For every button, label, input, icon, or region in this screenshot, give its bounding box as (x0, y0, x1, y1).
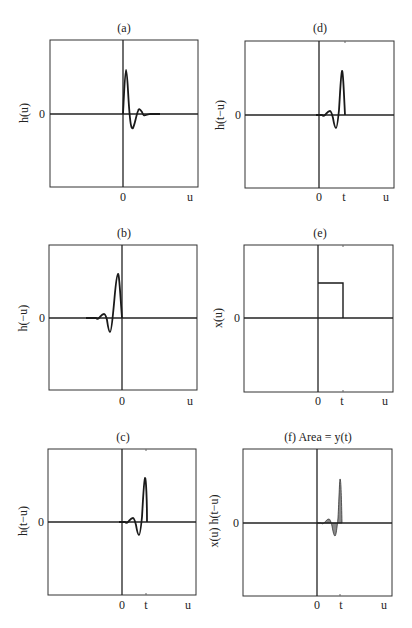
panel-a-ylabel: h(u) (17, 103, 31, 123)
panel-b-zero-y: 0 (39, 311, 45, 325)
panel-e-ylabel: x(u) (211, 308, 225, 328)
panel-d-xtick-u: u (383, 190, 389, 204)
panel-a-xtick-0: 0 (120, 190, 126, 204)
panel-b-reversed-curve (86, 274, 122, 332)
panel-d-xtick-0: 0 (316, 190, 322, 204)
panel-f-zero-y: 0 (233, 516, 239, 530)
convolution-figure: (a) h(u) 0 0 u (d) h(t−u) 0 0 t u (b) (0, 0, 412, 628)
panel-a-xtick-u: u (187, 190, 193, 204)
panel-f: (f) Area = y(t) x(u) h(t−u) 0 0 t u (207, 430, 392, 612)
panel-d-title: (d) (313, 21, 327, 35)
panel-f-xtick-t: t (339, 598, 343, 612)
panel-d-zero-y: 0 (235, 108, 241, 122)
panel-f-xtick-u: u (381, 598, 387, 612)
panel-d-shifted-curve (316, 71, 345, 128)
panel-e-title: (e) (313, 226, 326, 240)
panel-f-title: (f) Area = y(t) (284, 430, 352, 444)
panel-f-shaded-area (317, 479, 342, 536)
panel-a-impulse-curve (123, 70, 160, 128)
panel-e: (e) x(u) 0 0 t u (211, 226, 393, 408)
panel-e-zero-y: 0 (234, 311, 240, 325)
panel-c-xtick-t: t (144, 598, 148, 612)
panel-b-title: (b) (117, 226, 131, 240)
panel-c-shifted-curve (119, 478, 147, 535)
panel-f-ylabel: x(u) h(t−u) (207, 494, 221, 547)
panel-a-title: (a) (117, 21, 130, 35)
panel-b-xtick-0: 0 (119, 394, 125, 408)
panel-b-xtick-u: u (187, 394, 193, 408)
panel-f-xtick-0: 0 (314, 598, 320, 612)
panel-c-xtick-0: 0 (119, 598, 125, 612)
panel-c-ylabel: h(t−u) (16, 506, 30, 536)
panel-d: (d) h(t−u) 0 0 t u (213, 21, 394, 204)
panel-c-xtick-u: u (185, 598, 191, 612)
panel-a: (a) h(u) 0 0 u (17, 21, 198, 204)
panel-d-xtick-t: t (342, 190, 346, 204)
panel-d-ylabel: h(t−u) (213, 100, 227, 130)
panel-e-xtick-t: t (340, 394, 344, 408)
panel-b: (b) h(−u) 0 0 u (16, 226, 197, 408)
panel-e-rect-pulse (318, 283, 343, 318)
panel-c-zero-y: 0 (38, 515, 44, 529)
panel-a-zero-y: 0 (39, 107, 45, 121)
panel-c-title: (c) (116, 430, 129, 444)
panel-b-ylabel: h(−u) (16, 305, 30, 332)
panel-e-xtick-u: u (382, 394, 388, 408)
panel-e-xtick-0: 0 (315, 394, 321, 408)
panel-c: (c) h(t−u) 0 0 t u (16, 430, 196, 612)
